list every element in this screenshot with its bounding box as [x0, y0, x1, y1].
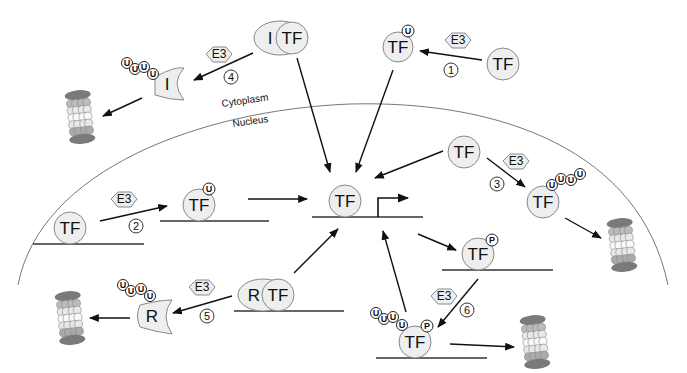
ubiquitinated-repressor: R U U U U — [118, 280, 173, 335]
svg-text:E3: E3 — [117, 192, 132, 206]
tf-cytoplasm: TF — [487, 48, 519, 80]
svg-text:TF: TF — [388, 38, 409, 57]
svg-text:U: U — [405, 26, 412, 36]
tf-monoubiquitinated: TF U — [383, 25, 414, 62]
proteasome — [64, 89, 96, 145]
inhibitor-tf-complex: I TF — [254, 21, 308, 55]
pathway-1: TF E3 1 TF U — [356, 25, 519, 172]
svg-text:3: 3 — [494, 178, 500, 190]
svg-text:TF: TF — [533, 193, 554, 212]
svg-text:TF: TF — [454, 143, 475, 162]
tf-phosphorylated: TF P — [462, 234, 498, 270]
svg-text:U: U — [120, 280, 127, 290]
svg-text:E3: E3 — [509, 154, 524, 168]
pathway-3: TF E3 3 TF U U U U — [375, 136, 638, 273]
svg-text:U: U — [558, 174, 565, 184]
ubiquitin-transcription-diagram: Cytoplasm Nucleus TF E3 1 TF U I TF — [0, 0, 687, 373]
svg-text:U: U — [549, 180, 556, 190]
svg-text:U: U — [206, 184, 213, 194]
pathway-6: TF P E3 6 TF P U U U U — [371, 231, 554, 370]
svg-text:P: P — [489, 235, 495, 245]
step-number-6: 6 — [460, 303, 474, 317]
svg-text:U: U — [381, 314, 388, 324]
svg-text:U: U — [390, 312, 397, 322]
svg-text:R: R — [146, 307, 158, 326]
pathway-2: TF E3 2 TF U — [33, 183, 307, 244]
svg-text:E3: E3 — [437, 289, 452, 303]
svg-text:U: U — [150, 69, 157, 79]
proteasome — [519, 314, 551, 370]
step-number-5: 5 — [200, 309, 214, 323]
svg-text:U: U — [128, 286, 135, 296]
svg-text:TF: TF — [282, 29, 303, 48]
repressor-tf-complex: R TF — [238, 279, 294, 311]
svg-text:I: I — [165, 75, 170, 94]
svg-text:P: P — [424, 321, 430, 331]
nucleus-label: Nucleus — [232, 113, 269, 129]
svg-text:4: 4 — [228, 71, 234, 83]
step-number-3: 3 — [490, 177, 504, 191]
svg-text:5: 5 — [204, 310, 210, 322]
step-number-2: 2 — [129, 219, 143, 233]
proteasome — [606, 217, 638, 273]
e3-ligase: E3 — [189, 280, 215, 295]
cytoplasm-label: Cytoplasm — [221, 92, 269, 109]
svg-text:U: U — [124, 58, 131, 68]
svg-text:U: U — [373, 308, 380, 318]
e3-ligase: E3 — [445, 33, 471, 48]
svg-text:U: U — [141, 62, 148, 72]
svg-text:TF: TF — [493, 55, 514, 74]
ubiquitinated-inhibitor: I U U U U — [122, 58, 185, 101]
e3-ligase: E3 — [431, 289, 457, 304]
svg-text:R: R — [248, 286, 260, 305]
svg-text:U: U — [399, 320, 406, 330]
svg-text:6: 6 — [464, 304, 470, 316]
svg-text:E3: E3 — [212, 47, 227, 61]
svg-text:TF: TF — [405, 333, 426, 352]
svg-text:1: 1 — [448, 64, 454, 76]
step-number-4: 4 — [224, 70, 238, 84]
svg-text:E3: E3 — [195, 280, 210, 294]
target-gene-promoter: TF — [312, 185, 423, 217]
step-number-1: 1 — [444, 63, 458, 77]
svg-text:I: I — [268, 29, 273, 48]
svg-text:U: U — [138, 284, 145, 294]
svg-text:E3: E3 — [451, 33, 466, 47]
pathway-5: R TF E3 5 R U U U U — [54, 229, 344, 346]
svg-text:TF: TF — [60, 219, 81, 238]
transcription-start-arrow — [378, 198, 408, 217]
tf-polyubiquitinated: TF U U U U — [527, 169, 586, 219]
svg-text:TF: TF — [468, 245, 489, 264]
pathway-4: I TF E3 4 I U U U U — [64, 21, 330, 172]
e3-ligase: E3 — [111, 192, 137, 207]
tf-phospho-polyubiquitinated: TF P U U U U — [371, 308, 434, 359]
svg-text:TF: TF — [189, 196, 210, 215]
svg-text:TF: TF — [335, 192, 356, 211]
svg-text:U: U — [577, 169, 584, 179]
e3-ligase: E3 — [206, 47, 232, 62]
svg-text:U: U — [132, 64, 139, 74]
svg-text:U: U — [147, 291, 154, 301]
proteasome — [54, 290, 86, 346]
svg-text:TF: TF — [268, 286, 289, 305]
e3-ligase: E3 — [503, 154, 529, 169]
svg-text:2: 2 — [133, 220, 139, 232]
svg-text:U: U — [568, 175, 575, 185]
